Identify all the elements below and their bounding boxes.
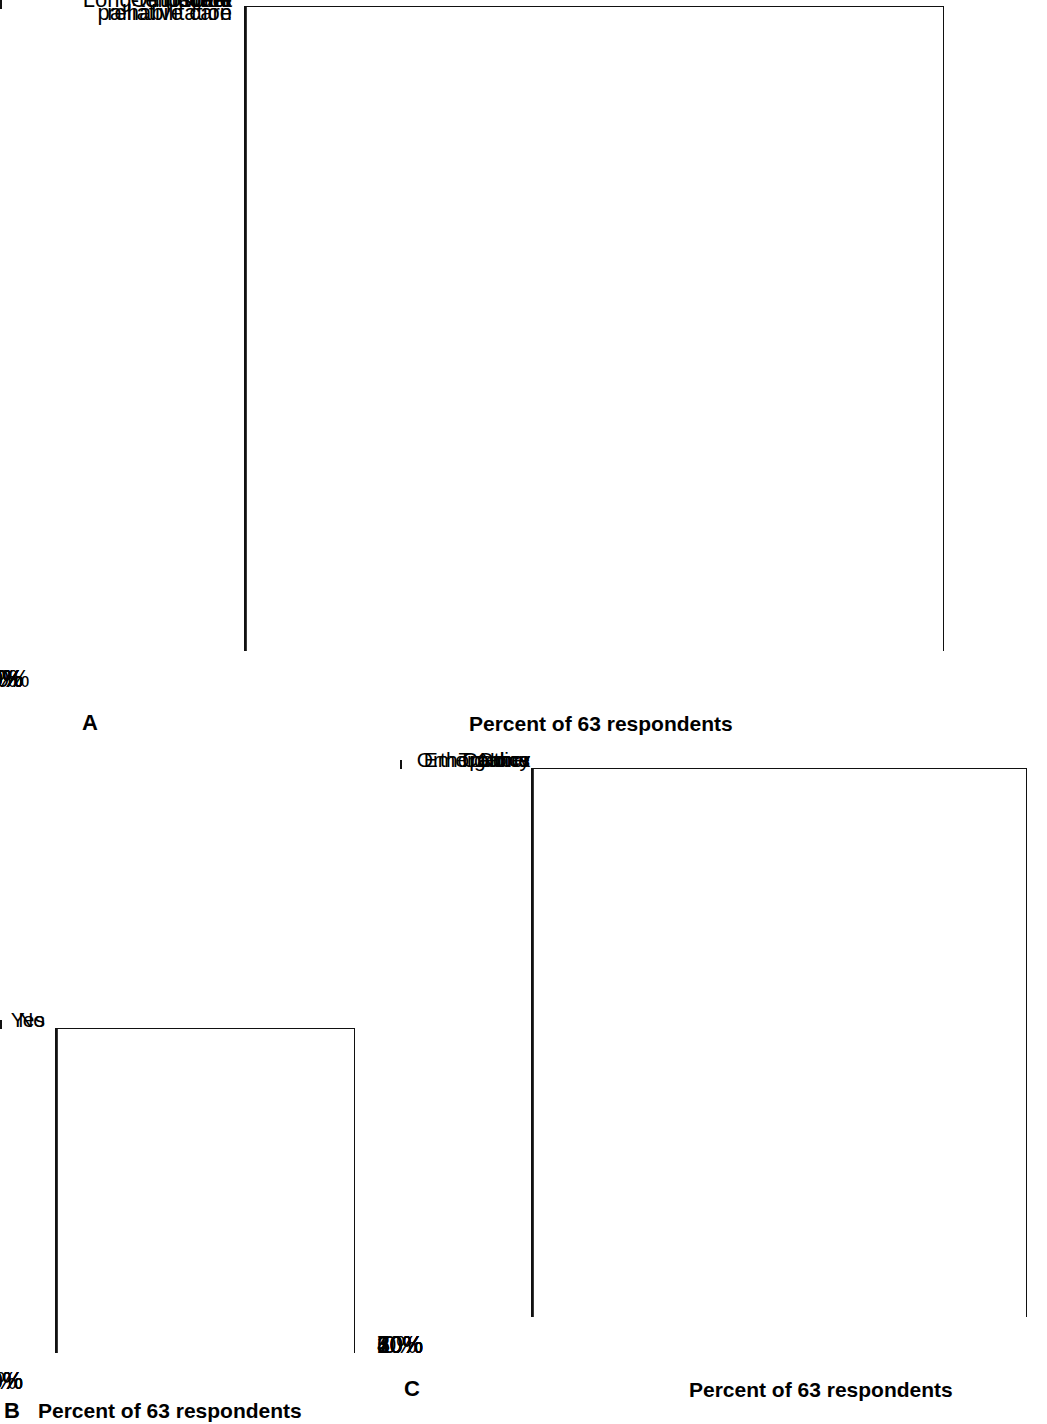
panel-b-yes-no: Percent of 63 respondents B YesNo0%10%20… <box>0 1020 400 1421</box>
panel-a-care-settings: Percent of 63 respondents A HospitalOutp… <box>0 0 1047 760</box>
x-axis-tick-label: 100% <box>0 666 29 693</box>
panel-a-letter: A <box>82 710 98 736</box>
gridline <box>533 769 534 1317</box>
panel-b-letter: B <box>4 1398 20 1424</box>
category-label: No <box>0 1008 45 1033</box>
panel-c-axis-title: Percent of 63 respondents <box>689 1378 953 1402</box>
x-axis-tick-label: 40% <box>0 1368 23 1395</box>
panel-c-specialty: Percent of 63 respondents C OrthopedicsC… <box>400 760 1047 1421</box>
panel-b-plot-area <box>55 1028 355 1353</box>
x-axis-tick-label: 70% <box>377 1332 423 1359</box>
panel-a-axis-title: Percent of 63 respondents <box>469 712 733 736</box>
category-label: Other <box>17 0 232 13</box>
panel-c-letter: C <box>404 1376 420 1402</box>
x-axis-tick <box>0 0 2 9</box>
x-axis-tick <box>400 760 402 769</box>
gridline <box>246 7 247 651</box>
category-label: Other <box>410 748 530 773</box>
gridline <box>57 1029 58 1353</box>
x-axis-tick <box>0 1020 2 1029</box>
panel-b-axis-title: Percent of 63 respondents <box>38 1399 302 1423</box>
panel-a-plot-area <box>244 6 944 651</box>
panel-c-plot-area <box>531 768 1027 1317</box>
